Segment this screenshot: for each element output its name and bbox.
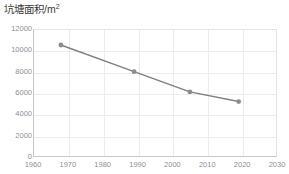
data-point-marker	[58, 43, 63, 48]
data-point-marker	[236, 99, 241, 104]
data-point-marker	[132, 69, 137, 74]
series-line	[61, 45, 239, 102]
series-line-layer	[0, 0, 289, 174]
chart-root: 坑塘面积/m2 020004000600080001000012000 1960…	[0, 0, 289, 174]
data-point-marker	[187, 90, 192, 95]
